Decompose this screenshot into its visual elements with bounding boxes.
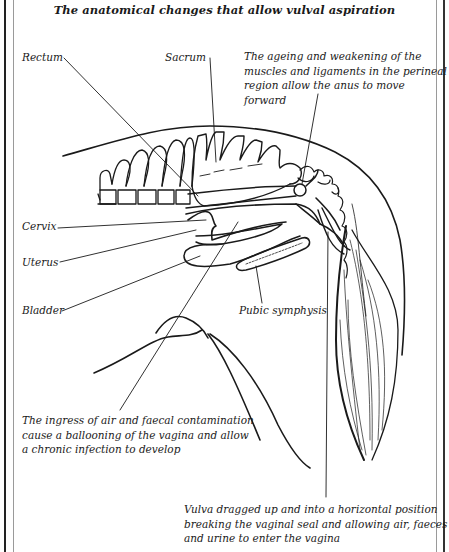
label-bladder: Bladder [22, 303, 64, 317]
leader-vulva [326, 232, 328, 497]
leader-uterus [60, 230, 196, 262]
lumbar-vertebrae [98, 138, 194, 204]
coccygeal-vertebrae [298, 166, 366, 316]
leader-bladder [62, 256, 200, 311]
label-cervix: Cervix [22, 219, 56, 233]
back-outline [63, 126, 404, 355]
pubic-symphysis-bone [237, 238, 310, 271]
leader-cervix [58, 220, 206, 228]
sacrum-bone [192, 132, 301, 206]
annotation-anus: The ageing and weakening of the muscles … [244, 49, 449, 107]
leader-rectum [64, 58, 198, 196]
leader-vagina [120, 222, 238, 410]
label-sacrum: Sacrum [165, 50, 206, 64]
leader-sacrum [210, 58, 216, 162]
label-uterus: Uterus [22, 255, 58, 269]
label-pubic-symphysis: Pubic symphysis [239, 303, 327, 317]
annotation-vulva: Vulva dragged up and into a horizontal p… [184, 502, 447, 546]
rectum-anus [186, 170, 318, 208]
leader-pubic [256, 266, 262, 303]
label-rectum: Rectum [22, 50, 63, 64]
annotation-vagina: The ingress of air and faecal contaminat… [22, 413, 254, 457]
